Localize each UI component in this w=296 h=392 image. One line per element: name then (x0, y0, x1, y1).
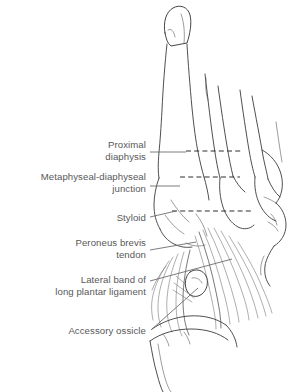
label-peroneus-brevis-tendon-line1: Peroneus brevis (75, 237, 146, 248)
label-styloid: Styloid (117, 212, 146, 223)
label-proximal-diaphysis-line1: Proximal (108, 139, 146, 150)
accessory-ossicle (185, 270, 207, 296)
label-lateral-band-long-plantar-ligament-line2: long plantar ligament (55, 286, 146, 297)
anatomical-figure: Proximal diaphysis Metaphyseal-diaphysea… (0, 0, 296, 392)
label-peroneus-brevis-tendon-line2: tendon (116, 249, 146, 260)
figure-canvas: Proximal diaphysis Metaphyseal-diaphysea… (0, 0, 296, 392)
label-metaphyseal-diaphyseal-junction-line1: Metaphyseal-diaphyseal (41, 171, 146, 182)
label-metaphyseal-diaphyseal-junction-line2: junction (111, 183, 146, 194)
figure-background (0, 0, 296, 392)
label-lateral-band-long-plantar-ligament-line1: Lateral band of (81, 274, 146, 285)
label-accessory-ossicle: Accessory ossicle (68, 325, 146, 336)
fifth-metatarsal-head (164, 6, 190, 46)
label-proximal-diaphysis-line2: diaphysis (105, 151, 146, 162)
accessory-ossicle-body (185, 270, 207, 296)
